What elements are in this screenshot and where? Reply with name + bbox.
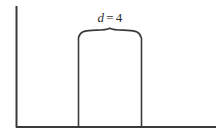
dimension-brace-icon bbox=[79, 28, 142, 37]
dimension-value: 4 bbox=[116, 10, 123, 25]
figure-container: d=4 bbox=[0, 0, 224, 139]
dimension-equals-sign: = bbox=[104, 10, 116, 25]
dimension-label: d=4 bbox=[78, 10, 142, 26]
